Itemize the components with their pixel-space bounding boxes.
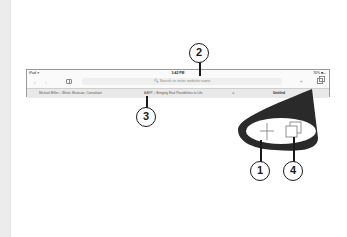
callout-4: 4 bbox=[283, 161, 303, 181]
magnifier-lens bbox=[0, 0, 347, 237]
callout-2: 2 bbox=[189, 43, 209, 63]
callout-3: 3 bbox=[136, 107, 156, 127]
callout-1: 1 bbox=[250, 161, 270, 181]
callout-1-leader bbox=[260, 140, 262, 163]
callout-2-leader bbox=[199, 62, 201, 76]
callout-4-leader bbox=[293, 137, 295, 163]
